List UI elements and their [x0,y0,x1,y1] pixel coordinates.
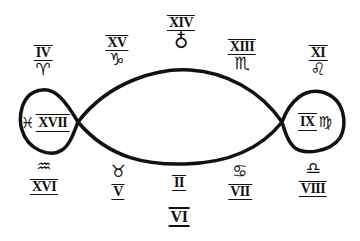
left-loop-label: ♓ XVII [21,114,70,132]
numeral-vi: VI [169,207,190,227]
label-bottom-vi: VI [169,207,190,227]
label-top-xi: XI ♌ [309,44,328,78]
virgo-icon: ♍ [319,113,332,131]
numeral-xvii: XVII [36,114,69,132]
label-bottom-xvi: ♒ XVI [30,158,58,195]
libra-icon: ♎ [299,160,327,177]
numeral-viii: VIII [299,181,327,197]
cancer-icon: ♋ [228,163,252,180]
label-top-xiv: XIV ♁ [167,14,195,51]
numeral-xvi: XVI [30,179,58,195]
aquarius-icon: ♒ [30,158,58,175]
numeral-vii: VII [228,184,252,200]
upper-arc [78,70,282,122]
taurus-icon: ♉ [110,163,125,180]
label-top-xv: XV ♑ [105,34,128,68]
leo-icon: ♌ [309,61,328,78]
numeral-ix: IX [298,113,317,131]
scorpio-icon: ♏ [228,55,256,72]
pisces-icon: ♓ [21,114,34,132]
aries-icon: ♈ [34,61,53,78]
capricorn-icon: ♑ [105,51,128,68]
lower-arc [78,122,282,164]
label-top-xiii: XIII ♏ [228,38,256,72]
numeral-ii: II [172,175,186,191]
numeral-v: V [111,184,125,200]
earth-cross-icon: ♁ [167,31,195,51]
right-loop-label: IX ♍ [298,113,332,131]
label-top-iv: IV ♈ [34,44,53,78]
label-bottom-v: ♉ V [110,163,125,200]
label-bottom-vii: ♋ VII [228,163,252,200]
label-bottom-viii: ♎ VIII [299,160,327,197]
label-bottom-ii: II [172,174,186,191]
